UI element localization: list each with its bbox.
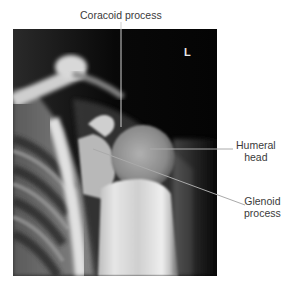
xray-illustration bbox=[13, 29, 217, 276]
label-humeral-head-line2: head bbox=[236, 151, 276, 163]
side-marker-left: L bbox=[184, 46, 191, 58]
label-glenoid-process: Glenoid process bbox=[244, 195, 281, 219]
label-glenoid-process-line2: process bbox=[244, 207, 281, 219]
label-glenoid-process-line1: Glenoid bbox=[244, 195, 281, 207]
label-coracoid-process: Coracoid process bbox=[80, 9, 162, 21]
label-humeral-head-line1: Humeral bbox=[236, 139, 276, 151]
shoulder-xray-image bbox=[13, 29, 217, 276]
label-humeral-head: Humeral head bbox=[236, 139, 276, 163]
